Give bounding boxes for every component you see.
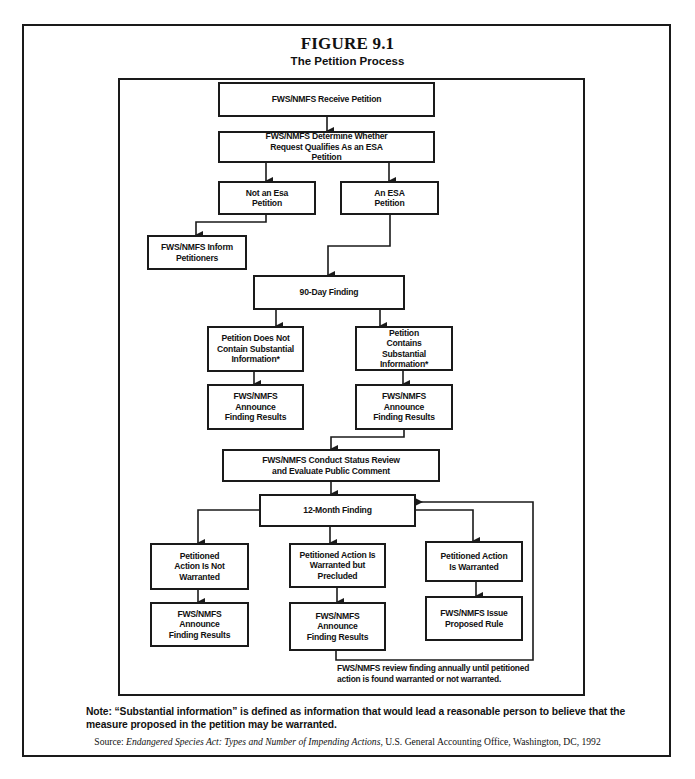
node-12-month-finding: 12-Month Finding xyxy=(259,494,416,527)
figure-title: FIGURE 9.1 xyxy=(0,34,695,54)
node-announce-results-4: FWS/NMFS Announce Finding Results xyxy=(289,602,386,651)
node-not-esa-petition: Not an Esa Petition xyxy=(218,181,316,215)
node-announce-results-2: FWS/NMFS Announce Finding Results xyxy=(355,384,453,430)
node-announce-results-3: FWS/NMFS Announce Finding Results xyxy=(150,602,249,647)
source-citation: Source: Endangered Species Act: Types an… xyxy=(0,736,695,747)
node-warranted: Petitioned Action Is Warranted xyxy=(425,541,523,582)
node-inform-petitioners: FWS/NMFS Inform Petitioners xyxy=(147,235,247,270)
node-not-substantial: Petition Does Not Contain Substantial In… xyxy=(207,326,304,372)
source-label: Source: xyxy=(94,736,126,747)
source-details: , U.S. General Accounting Office, Washin… xyxy=(380,736,600,747)
annual-review-note: FWS/NMFS review finding annually until p… xyxy=(337,663,537,684)
source-title: Endangered Species Act: Types and Number… xyxy=(126,736,380,747)
node-warranted-precluded: Petitioned Action Is Warranted but Precl… xyxy=(289,543,386,588)
node-not-warranted: Petitioned Action Is Not Warranted xyxy=(150,543,249,590)
node-determine-qualification: FWS/NMFS Determine Whether Request Quali… xyxy=(218,131,435,163)
node-issue-proposed-rule: FWS/NMFS Issue Proposed Rule xyxy=(425,596,523,641)
figure-subtitle: The Petition Process xyxy=(0,55,695,67)
node-esa-petition: An ESA Petition xyxy=(340,181,439,215)
node-status-review: FWS/NMFS Conduct Status Review and Evalu… xyxy=(222,449,440,482)
footnote: Note: “Substantial information” is defin… xyxy=(86,705,646,731)
node-receive-petition: FWS/NMFS Receive Petition xyxy=(218,82,435,117)
node-substantial: Petition Contains Substantial Informatio… xyxy=(355,326,453,371)
node-announce-results-1: FWS/NMFS Announce Finding Results xyxy=(207,384,304,430)
node-90-day-finding: 90-Day Finding xyxy=(253,275,405,310)
